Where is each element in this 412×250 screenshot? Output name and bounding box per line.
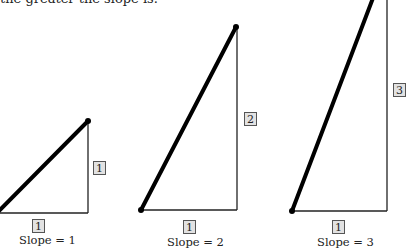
endpoint-dot xyxy=(289,208,295,214)
triangle-slope-1 xyxy=(0,118,91,214)
rise-label-1: 1 xyxy=(93,161,106,175)
endpoint-dot xyxy=(233,24,239,30)
run-label-1: 1 xyxy=(32,219,45,233)
slope-line-3 xyxy=(292,0,373,211)
triangle-slope-2 xyxy=(138,24,239,213)
run-label-2: 1 xyxy=(183,220,196,234)
triangle-slope-3 xyxy=(289,0,387,214)
endpoint-dot xyxy=(85,118,91,124)
run-label-3: 1 xyxy=(332,220,345,234)
slope-line-1 xyxy=(0,121,88,214)
rise-label-2: 2 xyxy=(244,112,257,126)
slope-triangles-diagram xyxy=(0,0,412,250)
slope-line-2 xyxy=(141,27,236,210)
rise-label-3: 3 xyxy=(393,83,406,97)
caption-slope-3: Slope = 3 xyxy=(317,235,374,249)
caption-slope-1: Slope = 1 xyxy=(19,233,76,247)
caption-slope-2: Slope = 2 xyxy=(167,235,224,249)
endpoint-dot xyxy=(138,207,144,213)
